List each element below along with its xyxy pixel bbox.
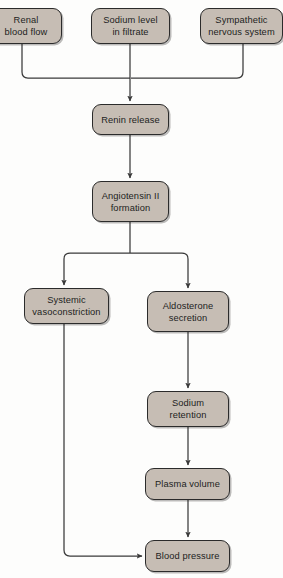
node-sodium-level-in-filtrate[interactable]: Sodium level in filtrate [91,8,170,44]
node-label-blood-pressure: Blood pressure [153,550,223,562]
node-label-renal-blood-flow: Renal blood flow [2,14,51,38]
edge-split-to-vasoconstriction [64,253,130,285]
node-renal-blood-flow[interactable]: Renal blood flow [0,8,62,44]
edge-split-to-aldosterone [130,253,188,288]
node-label-aldosterone-secretion: Aldosterone secretion [160,300,217,324]
node-blood-pressure[interactable]: Blood pressure [145,540,230,572]
node-angiotensin-ii-formation[interactable]: Angiotensin II formation [92,181,169,222]
node-sympathetic-nervous-system[interactable]: Sympathetic nervous system [200,8,283,44]
node-sodium-retention[interactable]: Sodium retention [147,391,229,427]
node-renin-release[interactable]: Renin release [92,104,169,135]
node-label-angiotensin-ii-formation: Angiotensin II formation [99,190,163,214]
edge-sympathetic-to-bus [131,44,243,78]
edge-vasoconstriction-to-blood-pressure [64,324,142,556]
edge-renal-to-bus [22,44,130,78]
node-label-systemic-vasoconstriction: Systemic vasoconstriction [29,294,103,318]
flowchart-diagram: Renal blood flow Sodium level in filtrat… [0,0,283,578]
node-systemic-vasoconstriction[interactable]: Systemic vasoconstriction [24,288,109,324]
node-label-sodium-level-in-filtrate: Sodium level in filtrate [100,14,160,38]
node-label-renin-release: Renin release [98,114,163,126]
node-label-sympathetic-nervous-system: Sympathetic nervous system [205,14,278,38]
node-label-sodium-retention: Sodium retention [166,397,209,421]
node-aldosterone-secretion[interactable]: Aldosterone secretion [147,291,229,332]
node-label-plasma-volume: Plasma volume [152,478,223,490]
node-plasma-volume[interactable]: Plasma volume [145,468,230,500]
